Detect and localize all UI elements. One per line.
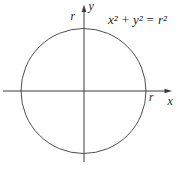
radius-label-top: r — [71, 10, 76, 22]
radius-label-right: r — [149, 91, 154, 103]
y-axis-label: y — [88, 0, 95, 13]
equation-label: x² + y² = r² — [107, 12, 168, 27]
circle-diagram-canvas: y r x² + y² = r² r x — [0, 0, 179, 179]
x-axis-label: x — [167, 94, 174, 108]
circle-figure: y r x² + y² = r² r x — [0, 0, 179, 179]
